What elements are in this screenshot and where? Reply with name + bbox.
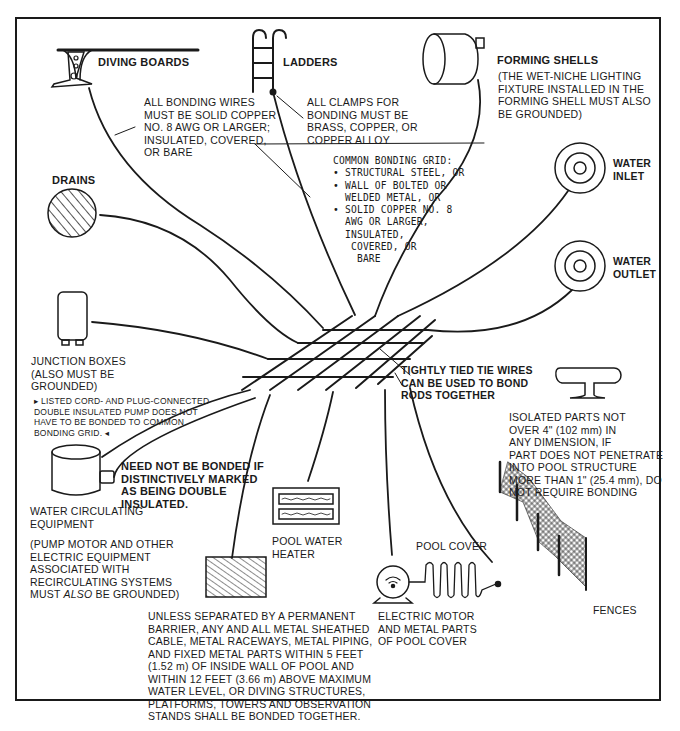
pool-cover-label: POOL COVER (416, 540, 487, 553)
pool-water-heater-label: POOL WATERHEATER (272, 535, 342, 560)
forming-shell-icon (423, 34, 484, 84)
double-insulated-note: NEED NOT BE BONDED IFDISTINCTIVELY MARKE… (121, 460, 264, 510)
bonding-wires-note: ALL BONDING WIRESMUST BE SOLID COPPER NO… (144, 96, 276, 159)
fences-label: FENCES (593, 604, 637, 617)
forming-shells-label: FORMING SHELLS (497, 54, 598, 67)
pool-water-heater-icon (273, 488, 339, 524)
water-circulating-label: WATER CIRCULATINGEQUIPMENT (30, 505, 143, 530)
metal-parts-note: UNLESS SEPARATED BY A PERMANENTBARRIER, … (148, 610, 372, 723)
isolated-parts-note: ISOLATED PARTS NOTOVER 4" (102 mm) IN AN… (509, 411, 663, 499)
water-outlet-icon (555, 241, 605, 291)
water-inlet-icon (555, 143, 605, 193)
water-circulating-pump-icon (52, 445, 114, 495)
junction-box-icon (58, 292, 87, 345)
diving-boards-label: DIVING BOARDS (98, 56, 189, 69)
common-bonding-grid-note: COMMON BONDING GRID: • STRUCTURAL STEEL,… (333, 155, 464, 266)
pump-motor-note: (PUMP MOTOR AND OTHERELECTRIC EQUIPMENT … (30, 538, 180, 601)
listed-pump-note: ▸ LISTED CORD- AND PLUG-CONNECTEDDOUBLE … (34, 396, 209, 438)
isolated-part-icon (556, 368, 621, 398)
metal-parts-icon (206, 557, 266, 597)
water-inlet-label: WATERINLET (613, 157, 651, 182)
tie-wires-note: TIGHTLY TIED TIE WIRESCAN BE USED TO BON… (401, 364, 533, 402)
ladders-label: LADDERS (283, 56, 338, 69)
junction-boxes-label: JUNCTION BOXES(ALSO MUST BE GROUNDED) (31, 355, 126, 393)
forming-shells-note: (THE WET-NICHE LIGHTINGFIXTURE INSTALLED… (498, 70, 651, 120)
water-outlet-label: WATEROUTLET (613, 255, 656, 280)
drains-label: DRAINS (52, 174, 95, 187)
electric-motor-label: ELECTRIC MOTORAND METAL PARTS OF POOL CO… (378, 610, 477, 648)
clamps-note: ALL CLAMPS FORBONDING MUST BE BRASS, COP… (307, 96, 418, 146)
drain-icon (48, 189, 96, 237)
pool-cover-motor-icon (374, 563, 501, 604)
ladder-icon (253, 30, 286, 95)
